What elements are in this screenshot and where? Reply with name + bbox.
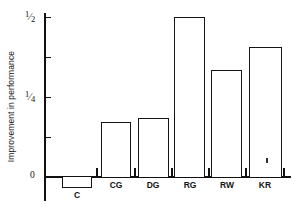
- y-axis-line: [44, 13, 46, 201]
- x-tick-2: [134, 168, 136, 177]
- x-axis-label-C: C: [74, 190, 80, 200]
- scan-artifact-mark: [266, 158, 268, 163]
- y-tick-label-half: 1⁄2: [25, 9, 35, 24]
- x-axis-label-RW: RW: [220, 180, 234, 190]
- bar-RW: [211, 70, 242, 177]
- x-axis-label-KR: KR: [259, 180, 271, 190]
- y-tick-label-zero: 0: [30, 170, 35, 180]
- y-tick-label-quarter: 1⁄4: [25, 89, 35, 104]
- y-tick-0-5: [44, 17, 51, 19]
- x-axis-label-CG: CG: [110, 180, 123, 190]
- x-tick-1: [96, 168, 98, 177]
- chart-figure: Improvement in performance 1⁄2 1⁄4 0 C C…: [0, 0, 298, 213]
- x-tick-6: [283, 168, 285, 177]
- y-tick-0-25: [44, 97, 51, 99]
- x-axis-label-RG: RG: [184, 180, 197, 190]
- x-axis-label-DG: DG: [147, 180, 160, 190]
- y-tick-0-375: [44, 57, 51, 59]
- bar-DG: [138, 118, 169, 177]
- x-tick-3: [171, 168, 173, 177]
- bar-CG: [101, 122, 131, 177]
- y-axis-title: Improvement in performance: [0, 0, 22, 213]
- half-denominator: 2: [31, 14, 35, 24]
- bar-C: [62, 177, 92, 188]
- x-tick-4: [208, 168, 210, 177]
- y-tick-0-125: [44, 137, 51, 139]
- quarter-denominator: 4: [31, 94, 35, 104]
- y-tick-0: [44, 177, 51, 179]
- x-tick-5: [245, 168, 247, 177]
- bar-RG: [174, 17, 205, 177]
